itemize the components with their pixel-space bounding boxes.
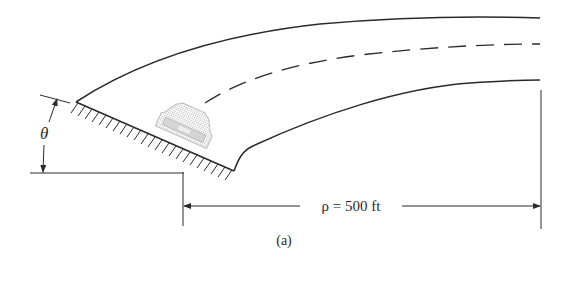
angle-label: θ	[40, 124, 48, 143]
angle-extension-line	[40, 95, 70, 103]
angle-arrow-lower	[43, 145, 44, 172]
figure-caption: (a)	[276, 233, 292, 249]
road-inner-edge	[234, 80, 540, 171]
banked-curve-diagram: θ ρ = 500 ft (a)	[0, 0, 569, 281]
road-centerline-dashed	[205, 44, 540, 103]
road-outer-edge	[76, 17, 540, 102]
angle-arrow-upper	[49, 99, 57, 122]
radius-label: ρ = 500 ft	[322, 198, 382, 214]
